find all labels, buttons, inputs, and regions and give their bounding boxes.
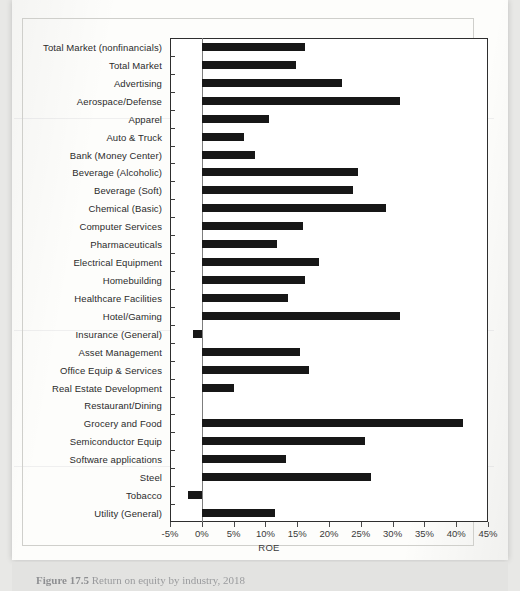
category-label: Tobacco [0,490,162,501]
category-axis-tick [170,235,175,236]
category-axis-tick [170,56,175,57]
value-axis-tick [456,522,457,527]
bar [202,168,358,176]
category-axis-tick [170,325,175,326]
bar [202,509,275,517]
category-axis-tick [170,128,175,129]
category-axis-tick [170,217,175,218]
bar [202,186,353,194]
category-axis-tick [170,181,175,182]
category-axis-tick [170,468,175,469]
bar [202,294,288,302]
value-axis-tick [393,522,394,527]
bar [202,312,400,320]
category-label: Aerospace/Defense [0,95,162,106]
bar [193,330,202,338]
bar [202,240,277,248]
bar [202,258,319,266]
bar [202,204,386,212]
category-label: Bank (Money Center) [0,149,162,160]
value-axis-tick [202,522,203,527]
bar [202,133,244,141]
bar [202,437,365,445]
bar [202,115,269,123]
bar [202,79,342,87]
figure-caption-body: Return on equity by industry, 2018 [92,574,245,586]
category-label: Homebuilding [0,275,162,286]
category-label: Office Equip & Services [0,364,162,375]
value-axis-tick [265,522,266,527]
bar [188,491,202,499]
category-label: Asset Management [0,346,162,357]
bar [202,61,296,69]
category-axis-tick [170,163,175,164]
category-label: Total Market [0,59,162,70]
category-label: Computer Services [0,221,162,232]
category-axis-tick [170,253,175,254]
category-label: Restaurant/Dining [0,400,162,411]
category-label: Utility (General) [0,508,162,519]
category-label: Advertising [0,77,162,88]
category-axis-tick [170,289,175,290]
category-axis-tick [170,361,175,362]
category-axis-labels: Total Market (nonfinancials)Total Market… [0,38,166,522]
category-axis-tick [170,504,175,505]
bar [202,455,287,463]
category-axis-tick [170,271,175,272]
bar [202,419,463,427]
category-axis-tick [170,486,175,487]
x-axis-title-text: ROE [258,542,280,553]
category-label: Total Market (nonfinancials) [0,41,162,52]
category-label: Grocery and Food [0,418,162,429]
figure-caption: Figure 17.5 Return on equity by industry… [36,574,245,586]
category-label: Insurance (General) [0,328,162,339]
category-label: Software applications [0,454,162,465]
category-label: Beverage (Soft) [0,185,162,196]
value-axis-tick [361,522,362,527]
x-axis-title: ROE [0,542,520,553]
category-axis-tick [170,450,175,451]
figure-caption-band: Figure 17.5 Return on equity by industry… [12,562,508,591]
category-label: Apparel [0,113,162,124]
bar [202,384,234,392]
category-label: Hotel/Gaming [0,310,162,321]
category-label: Auto & Truck [0,131,162,142]
bar [202,473,371,481]
category-axis-tick [170,432,175,433]
category-axis-tick [170,343,175,344]
bar [202,222,303,230]
value-axis-tick [424,522,425,527]
category-axis-tick [170,146,175,147]
value-axis-tick [297,522,298,527]
bar [202,97,400,105]
bar [202,276,306,284]
value-axis-tick [329,522,330,527]
category-label: Chemical (Basic) [0,203,162,214]
category-label: Pharmaceuticals [0,239,162,250]
category-axis-tick [170,199,175,200]
category-label: Beverage (Alcoholic) [0,167,162,178]
category-axis-tick [170,379,175,380]
category-axis-tick [170,110,175,111]
value-axis-tick-label: 45% [468,528,508,539]
category-label: Steel [0,472,162,483]
category-axis-tick [170,74,175,75]
bar [202,43,306,51]
value-axis-tick [234,522,235,527]
bar [202,348,301,356]
category-axis-tick [170,397,175,398]
category-label: Semiconductor Equip [0,436,162,447]
roe-by-industry-bar-chart: Total Market (nonfinancials)Total Market… [0,0,520,560]
category-axis-tick [170,307,175,308]
bar [202,366,309,374]
category-label: Electrical Equipment [0,257,162,268]
category-axis-tick [170,414,175,415]
value-axis-tick [488,522,489,527]
category-label: Healthcare Facilities [0,292,162,303]
category-label: Real Estate Development [0,382,162,393]
value-axis-tick [170,522,171,527]
bar [202,151,255,159]
category-axis-tick [170,92,175,93]
figure-caption-label: Figure 17.5 [36,574,89,586]
